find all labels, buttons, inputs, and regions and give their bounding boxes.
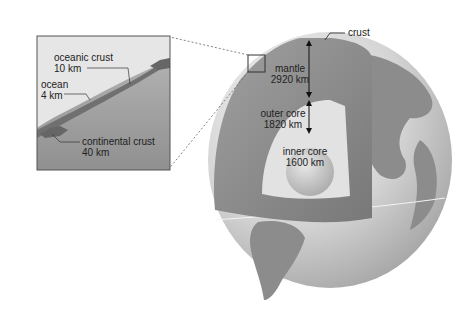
continental-crust-label: continental crust 40 km	[82, 136, 155, 158]
inner-core-label: inner core 1600 km	[272, 146, 338, 168]
label-name: continental crust	[82, 136, 155, 147]
label-name: outer core	[258, 108, 308, 119]
label-value: 1820 km	[258, 119, 308, 130]
label-name: crust	[348, 27, 370, 38]
label-value: 10 km	[54, 63, 113, 74]
label-value: 40 km	[82, 147, 155, 158]
oceanic-crust-label: oceanic crust 10 km	[54, 52, 113, 74]
ocean-label: ocean 4 km	[41, 79, 68, 101]
crust-label: crust	[348, 27, 370, 38]
label-name: mantle	[268, 63, 312, 74]
outer-core-label: outer core 1820 km	[258, 108, 308, 130]
label-value: 1600 km	[272, 157, 338, 168]
label-value: 2920 km	[268, 74, 312, 85]
label-value: 4 km	[41, 90, 68, 101]
label-name: oceanic crust	[54, 52, 113, 63]
earth-diagram	[0, 0, 472, 320]
mantle-label: mantle 2920 km	[268, 63, 312, 85]
label-name: inner core	[272, 146, 338, 157]
label-name: ocean	[41, 79, 68, 90]
